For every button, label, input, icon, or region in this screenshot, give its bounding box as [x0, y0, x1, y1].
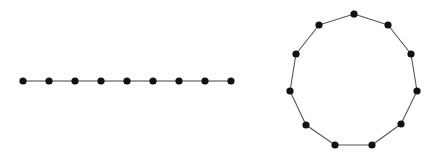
node — [302, 121, 309, 128]
path-graph — [19, 77, 234, 84]
edge — [354, 14, 388, 25]
edge — [388, 25, 411, 54]
edge — [319, 14, 354, 25]
edge — [372, 124, 401, 145]
node — [407, 50, 414, 57]
node — [123, 77, 130, 84]
node — [71, 77, 78, 84]
edge — [411, 54, 417, 91]
node — [292, 50, 299, 57]
node — [350, 10, 357, 17]
node — [331, 141, 338, 148]
edge — [401, 91, 417, 124]
node — [97, 77, 104, 84]
cycle-graph — [286, 10, 420, 148]
node — [384, 21, 391, 28]
node — [315, 21, 322, 28]
node — [286, 87, 293, 94]
node — [227, 77, 234, 84]
node — [413, 87, 420, 94]
node — [45, 77, 52, 84]
edge — [290, 91, 306, 125]
graph-diagram — [0, 0, 439, 154]
edge — [290, 54, 296, 91]
node — [19, 77, 26, 84]
edge — [296, 25, 319, 54]
node — [175, 77, 182, 84]
node — [149, 77, 156, 84]
node — [397, 120, 404, 127]
edge — [306, 125, 335, 145]
node — [201, 77, 208, 84]
node — [368, 141, 375, 148]
